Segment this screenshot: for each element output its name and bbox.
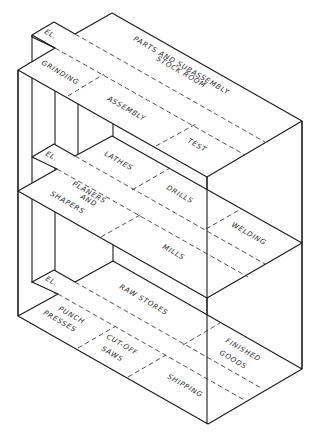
bottom-floor: EL. RAW STORES PUNCH PRESSES CUT-OFF SAW… [18,261,302,424]
plant-layout-diagram: EL. PARTS AND SUBASSEMBLY STOCK ROOM GRI… [0,0,316,436]
